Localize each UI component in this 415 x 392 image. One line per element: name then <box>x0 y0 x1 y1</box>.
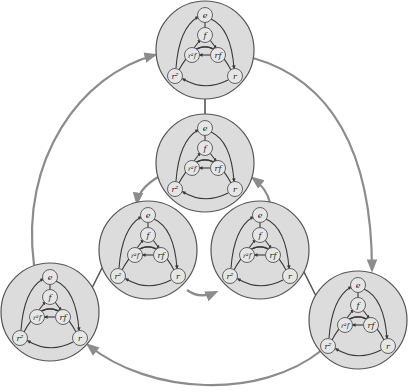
node-label: r² <box>114 272 121 281</box>
node-label: e <box>258 211 263 220</box>
node-r2f: r²f <box>185 48 200 63</box>
node-rf: rf <box>364 318 379 333</box>
node-r2: r² <box>168 182 183 197</box>
cluster-mid-left: efr²frfr²r <box>99 201 197 299</box>
node-r2: r² <box>321 339 336 354</box>
node-e: e <box>43 270 58 285</box>
clusters: efr²frfr²refr²frfr²refr²frfr²refr²frfr²r… <box>1 1 407 369</box>
node-f: f <box>198 28 213 43</box>
inner-arrow-center-to-mid-left <box>137 177 158 203</box>
node-label: e <box>356 281 361 290</box>
node-label: e <box>203 124 208 133</box>
cluster-top: efr²frfr²r <box>156 1 254 99</box>
node-rf: rf <box>266 248 281 263</box>
link-mid-left-bottom-left <box>92 268 102 288</box>
cluster-bottom-right: efr²frfr²r <box>309 271 407 369</box>
node-r2f: r²f <box>30 310 45 325</box>
node-e: e <box>141 208 156 223</box>
node-r2: r² <box>13 331 28 346</box>
inner-arrow-mid-right-to-center <box>253 178 270 203</box>
node-label: r² <box>171 185 178 194</box>
node-r: r <box>171 269 186 284</box>
node-label: e <box>203 11 208 20</box>
node-r: r <box>73 331 88 346</box>
link-mid-right-bottom-right <box>303 270 316 296</box>
node-label: r² <box>171 72 178 81</box>
node-f: f <box>43 290 58 305</box>
node-rf: rf <box>56 310 71 325</box>
node-r2f: r²f <box>240 248 255 263</box>
node-r2f: r²f <box>338 318 353 333</box>
node-label: e <box>146 211 151 220</box>
node-f: f <box>351 298 366 313</box>
node-r: r <box>381 339 396 354</box>
cluster-bottom-left: efr²frfr²r <box>1 263 99 361</box>
node-r: r <box>228 69 243 84</box>
node-f: f <box>141 228 156 243</box>
node-r: r <box>283 269 298 284</box>
node-r2: r² <box>223 269 238 284</box>
node-e: e <box>198 121 213 136</box>
node-r2f: r²f <box>128 248 143 263</box>
node-rf: rf <box>211 161 226 176</box>
node-rf: rf <box>154 248 169 263</box>
inner-arrow-mid-left-to-mid-right <box>187 290 216 295</box>
node-label: e <box>48 273 53 282</box>
node-label: r² <box>324 342 331 351</box>
node-r2: r² <box>168 69 183 84</box>
node-r2: r² <box>111 269 126 284</box>
node-e: e <box>253 208 268 223</box>
cluster-center: efr²frfr²r <box>156 114 254 212</box>
cayley-digraph: efr²frfr²refr²frfr²refr²frfr²refr²frfr²r… <box>0 0 415 392</box>
node-rf: rf <box>211 48 226 63</box>
outer-arrow-bottom-right-to-bottom-left <box>88 345 322 385</box>
node-label: r² <box>16 334 23 343</box>
node-e: e <box>351 278 366 293</box>
node-r2f: r²f <box>185 161 200 176</box>
node-label: r² <box>226 272 233 281</box>
cluster-mid-right: efr²frfr²r <box>211 201 309 299</box>
node-r: r <box>228 182 243 197</box>
node-f: f <box>198 141 213 156</box>
node-e: e <box>198 8 213 23</box>
node-f: f <box>253 228 268 243</box>
